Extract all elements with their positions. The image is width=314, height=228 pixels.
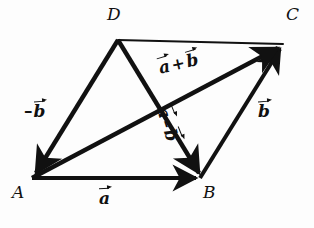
- vertex-label-C: C: [286, 6, 299, 23]
- vector-label-a: a: [99, 190, 110, 207]
- vector-label-minus-b: – b: [24, 103, 45, 120]
- vec-a-glyph: a: [99, 190, 110, 207]
- vec-b-glyph: b: [258, 103, 270, 120]
- vec-b-glyph: b: [34, 103, 46, 120]
- vector-parallelogram-figure: A B C D a b – b a + b: [0, 0, 314, 228]
- vertex-label-A: A: [12, 184, 24, 201]
- vector-label-b: b: [258, 103, 270, 120]
- vertex-label-B: B: [203, 184, 216, 201]
- edge-D-to-C: [118, 40, 283, 44]
- minus-sign: –: [24, 103, 34, 120]
- vertex-label-D: D: [107, 6, 121, 23]
